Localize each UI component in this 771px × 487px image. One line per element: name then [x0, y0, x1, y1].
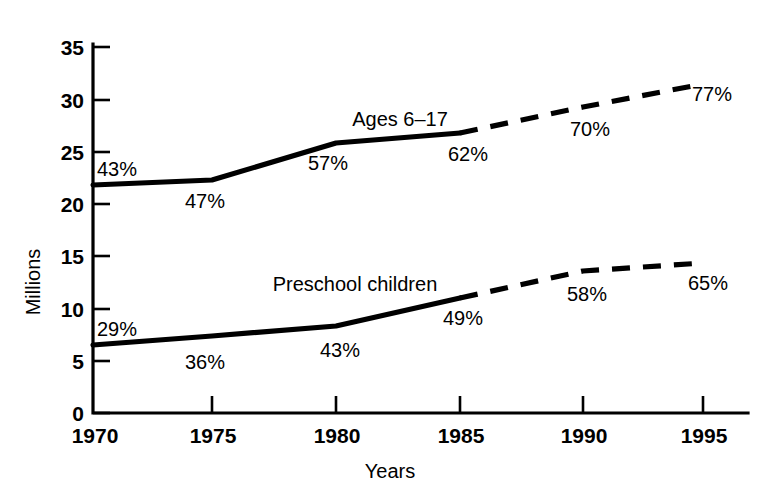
y-tick-label-15: 15	[61, 245, 85, 268]
point-label-preschool-1980: 43%	[320, 339, 360, 361]
chart-container: 0 5 10 15 20 25 30 35 1970 1975 1980 198…	[0, 0, 771, 487]
point-label-preschool-1970: 29%	[97, 318, 137, 340]
point-label-ages-1980: 57%	[308, 152, 348, 174]
series-ages-6-17-label: Ages 6–17	[352, 108, 448, 130]
point-label-preschool-1995: 65%	[688, 272, 728, 294]
point-label-preschool-1985: 49%	[443, 307, 483, 329]
y-tick-label-35: 35	[61, 36, 85, 59]
y-tick-label-30: 30	[61, 89, 84, 112]
y-tick-label-25: 25	[61, 141, 85, 164]
y-axis-title: Millions	[22, 249, 44, 316]
series-preschool-label: Preschool children	[273, 273, 438, 295]
point-label-preschool-1975: 36%	[185, 351, 225, 373]
series-preschool-children: Preschool children 29% 36% 43% 49% 58% 6…	[93, 263, 728, 373]
y-tick-label-5: 5	[72, 350, 84, 373]
x-tick-label-1970: 1970	[72, 424, 119, 447]
y-tick-label-0: 0	[72, 402, 84, 425]
x-axis-title: Years	[365, 460, 415, 482]
point-label-ages-1970: 43%	[97, 158, 137, 180]
point-label-ages-1985: 62%	[448, 143, 488, 165]
axis-group: 0 5 10 15 20 25 30 35 1970 1975 1980 198…	[22, 36, 748, 482]
x-tick-label-1990: 1990	[561, 424, 608, 447]
series-preschool-solid-segment	[93, 298, 460, 345]
point-label-preschool-1990: 58%	[567, 283, 607, 305]
line-chart: 0 5 10 15 20 25 30 35 1970 1975 1980 198…	[0, 0, 771, 487]
y-tick-label-20: 20	[61, 193, 84, 216]
series-ages-6-17-solid-segment	[93, 133, 460, 185]
series-ages-6-17: Ages 6–17 43% 47% 57% 62% 70% 77%	[93, 83, 732, 212]
x-tick-label-1975: 1975	[190, 424, 237, 447]
point-label-ages-1995: 77%	[692, 83, 732, 105]
x-tick-label-1980: 1980	[314, 424, 361, 447]
y-tick-label-10: 10	[61, 298, 84, 321]
point-label-ages-1990: 70%	[570, 118, 610, 140]
x-tick-label-1995: 1995	[681, 424, 728, 447]
x-tick-label-1985: 1985	[438, 424, 485, 447]
point-label-ages-1975: 47%	[185, 190, 225, 212]
